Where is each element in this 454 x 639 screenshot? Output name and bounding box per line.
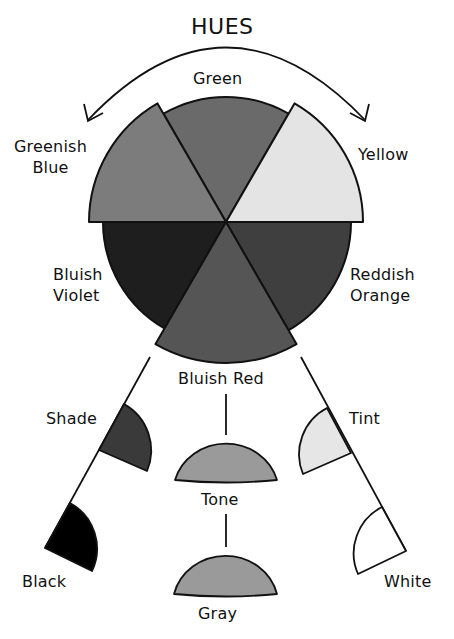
label-reddish-orange-line2: Orange	[350, 285, 415, 306]
label-bluish-red: Bluish Red	[178, 368, 264, 389]
label-bluish-violet-line2: Violet	[53, 285, 103, 306]
label-bluish-violet-line1: Bluish	[53, 264, 103, 285]
label-shade: Shade	[46, 408, 97, 429]
label-black: Black	[22, 571, 66, 592]
label-tint: Tint	[349, 408, 380, 429]
shade-swatch	[99, 404, 151, 471]
label-tone: Tone	[201, 489, 239, 510]
arrowhead-right-icon	[350, 104, 369, 121]
color-wheel-diagram	[0, 0, 454, 639]
gray-swatch	[174, 556, 277, 597]
label-reddish-orange-line1: Reddish	[350, 264, 415, 285]
label-reddish-orange: Reddish Orange	[350, 264, 415, 306]
label-yellow: Yellow	[358, 144, 408, 165]
label-gray: Gray	[198, 603, 237, 624]
label-greenish-blue-line1: Greenish	[14, 136, 87, 157]
arrowhead-left-icon	[84, 104, 103, 121]
label-bluish-violet: Bluish Violet	[53, 264, 103, 306]
diagram-title: HUES	[191, 16, 254, 37]
tint-swatch	[299, 408, 351, 474]
label-green: Green	[193, 68, 242, 89]
black-swatch	[45, 503, 97, 571]
white-swatch	[354, 507, 406, 574]
tone-swatch	[175, 444, 277, 483]
label-greenish-blue-line2: Blue	[14, 157, 87, 178]
label-white: White	[384, 571, 432, 592]
label-greenish-blue: Greenish Blue	[14, 136, 87, 178]
